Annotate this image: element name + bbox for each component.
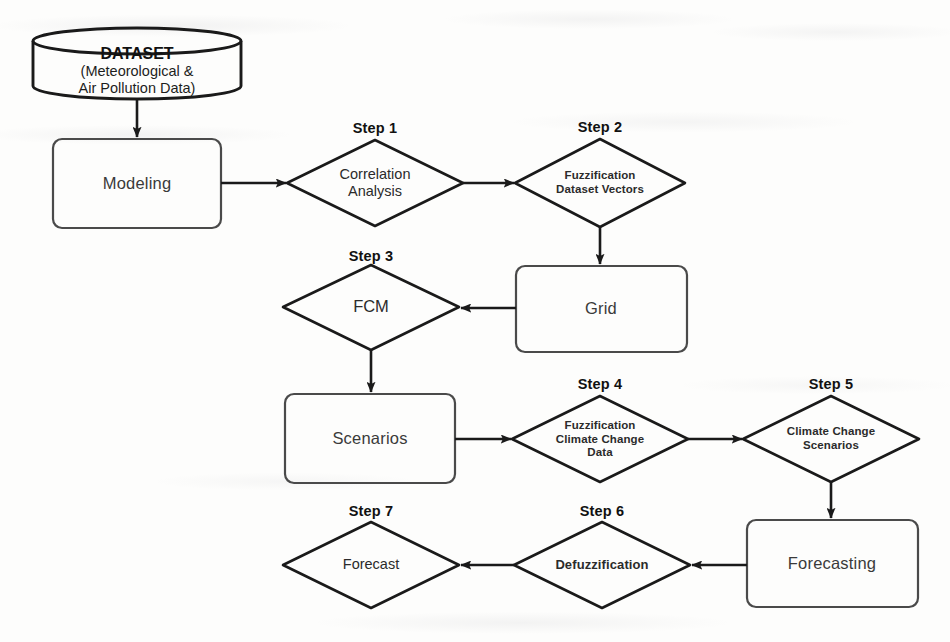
grid-box-shape [516, 266, 687, 352]
fuzzification-dataset-vectors-diamond-shape [515, 139, 685, 227]
forecast-diamond-shape [283, 522, 459, 608]
fcm-diamond-shape [283, 265, 459, 350]
dataset-cylinder-shape [33, 28, 241, 99]
scenarios-box-shape [285, 394, 455, 483]
correlation-analysis-diamond-shape [287, 140, 463, 226]
climate-change-scenarios-diamond-shape [743, 396, 919, 482]
defuzzification-diamond-shape [514, 522, 690, 608]
fuzzification-climate-change-data-diamond-shape [512, 396, 688, 482]
flowchart-shapes [0, 0, 950, 642]
forecasting-box-shape [747, 520, 918, 607]
flowchart-canvas: DATASET (Meteorological & Air Pollution … [0, 0, 950, 642]
modeling-box-shape [53, 139, 221, 228]
